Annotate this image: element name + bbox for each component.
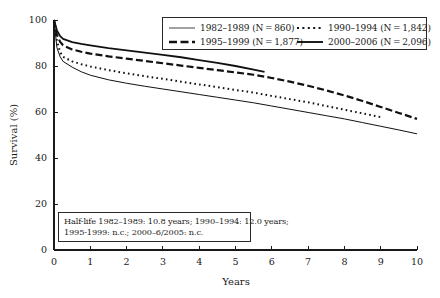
x-tick-label: 9 — [378, 256, 384, 267]
y-tick-label: 80 — [35, 60, 47, 71]
x-tick-label: 1 — [87, 256, 93, 267]
y-axis-title: Survival (%) — [8, 104, 19, 166]
x-tick-label: 5 — [232, 256, 238, 267]
x-tick-label: 8 — [341, 256, 347, 267]
y-tick-label: 0 — [41, 244, 47, 255]
y-tick-label: 100 — [29, 14, 47, 25]
legend-label-1982-1989: 1982–1989 (N = 860) — [200, 23, 294, 33]
legend-entry-1990-1994: 1990–1994 (N = 1,842) — [296, 23, 428, 33]
y-tick-label: 40 — [35, 152, 47, 163]
legend-label-1995-1999: 1995–1999 (N = 1,877) — [200, 37, 303, 47]
legend-swatch-thin-solid — [168, 23, 196, 33]
x-tick-label: 10 — [411, 256, 423, 267]
halflife-annotation-box: Half-life 1982–1989: 10.8 years; 1990–19… — [58, 212, 251, 242]
x-tick-label: 6 — [269, 256, 275, 267]
x-tick-label: 4 — [196, 256, 202, 267]
halflife-annotation-line-1: Half-life 1982–1989: 10.8 years; 1990–19… — [64, 216, 246, 227]
halflife-annotation-line-2: 1995-1999: n.c.; 2000–6/2005: n.c. — [64, 227, 246, 238]
x-axis-title: Years — [221, 276, 250, 287]
legend-swatch-dashed — [168, 37, 196, 47]
survival-curve-figure: 020406080100 012345678910 Years Survival… — [0, 0, 440, 298]
legend-label-1990-1994: 1990–1994 (N = 1,842) — [328, 23, 431, 33]
legend-entry-1982-1989: 1982–1989 (N = 860) — [168, 23, 296, 33]
x-tick-label: 0 — [51, 256, 57, 267]
legend-label-2000-2006: 2000–2006 (N = 2,096) — [328, 37, 431, 47]
x-tick-label: 3 — [160, 256, 166, 267]
legend-entry-2000-2006: 2000–2006 (N = 2,096) — [296, 37, 428, 47]
y-tick-label: 60 — [35, 106, 47, 117]
legend-entry-1995-1999: 1995–1999 (N = 1,877) — [168, 37, 296, 47]
x-axis-ticks: 012345678910 — [51, 246, 423, 267]
legend: 1982–1989 (N = 860) 1990–1994 (N = 1,842… — [162, 17, 427, 50]
legend-swatch-dotted — [296, 23, 324, 33]
x-tick-label: 7 — [305, 256, 311, 267]
y-tick-label: 20 — [35, 198, 47, 209]
x-tick-label: 2 — [124, 256, 130, 267]
legend-swatch-thick-solid — [296, 37, 324, 47]
